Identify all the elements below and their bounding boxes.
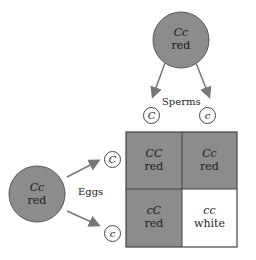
male-genotype: Cc <box>161 26 201 39</box>
cell-phenotype: red <box>126 160 182 173</box>
cell-genotype: cC <box>126 204 182 217</box>
cell-genotype: Cc <box>182 147 237 160</box>
egg-arrow-top <box>67 161 98 177</box>
cell-phenotype: red <box>182 160 237 173</box>
female-genotype: Cc <box>17 181 57 194</box>
female-phenotype: red <box>17 194 57 207</box>
sperm-arrow-left <box>153 63 165 96</box>
cell-genotype: cc <box>182 204 237 217</box>
sperm-allele-dominant: C <box>143 107 160 124</box>
sperm-arrow-right <box>196 63 209 96</box>
sperms-label: Sperms <box>162 96 201 107</box>
female-parent-label: Cc red <box>17 181 57 207</box>
cell-phenotype: red <box>126 217 182 230</box>
sperm-allele-recessive: c <box>199 107 216 124</box>
punnett-cell-Cc: Cc red <box>182 147 237 173</box>
eggs-label: Eggs <box>78 186 103 197</box>
punnett-cell-cc: cc white <box>182 204 237 230</box>
punnett-cell-CC: CC red <box>126 147 182 173</box>
egg-allele-dominant: C <box>104 151 121 168</box>
egg-allele-recessive: c <box>104 225 121 242</box>
cell-phenotype: white <box>182 217 237 230</box>
cell-genotype: CC <box>126 147 182 160</box>
punnett-cell-cC: cC red <box>126 204 182 230</box>
male-phenotype: red <box>161 39 201 52</box>
egg-arrow-bottom <box>67 211 98 225</box>
male-parent-label: Cc red <box>161 26 201 52</box>
